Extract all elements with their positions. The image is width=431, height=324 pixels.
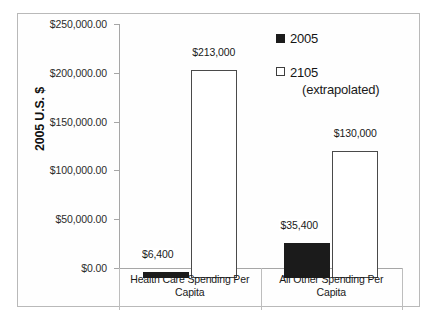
y-tick-label: $200,000.00 <box>50 67 107 79</box>
legend-label-2005: 2005 <box>290 30 318 47</box>
y-tick-label: $0.00 <box>81 262 107 274</box>
y-tick-mark: $200,000.00 <box>114 73 119 74</box>
legend-swatch-outline-icon <box>276 67 285 76</box>
chart-legend: 2005 2105 (extrapolated) <box>276 30 426 114</box>
legend-sublabel-2105: (extrapolated) <box>302 81 379 98</box>
bar-2105-group-1[interactable] <box>191 70 237 278</box>
legend-label-2105: 2105 <box>290 65 318 80</box>
bar-value-label: $213,000 <box>191 46 236 58</box>
y-tick-mark: $100,000.00 <box>114 170 119 171</box>
x-axis-category-label: All Other Spending PerCapita <box>261 273 403 299</box>
category-label-line2: Capita <box>261 286 403 299</box>
legend-item-2105[interactable]: 2105 (extrapolated) <box>276 63 426 98</box>
y-tick-mark: $150,000.00 <box>114 122 119 123</box>
y-tick-label: $50,000.00 <box>55 213 107 225</box>
y-axis-line <box>119 24 120 269</box>
y-tick-label: $150,000.00 <box>50 116 107 128</box>
y-tick-label: $100,000.00 <box>50 164 107 176</box>
legend-item-2005[interactable]: 2005 <box>276 30 426 47</box>
category-label-line2: Capita <box>119 286 261 299</box>
y-axis-title: 2005 U.S. $ <box>33 59 47 179</box>
bar-2105-group-2[interactable] <box>332 151 378 278</box>
chart-frame: 2005 U.S. $ $0.00$50,000.00$100,000.00$1… <box>17 13 420 307</box>
category-label-line1: Health Care Spending Per <box>119 273 261 286</box>
legend-swatch-filled-icon <box>276 34 285 43</box>
bar-value-label: $6,400 <box>141 248 175 260</box>
legend-label-2105-wrap: 2105 (extrapolated) <box>290 63 379 98</box>
chart-container: 2005 U.S. $ $0.00$50,000.00$100,000.00$1… <box>0 0 431 324</box>
x-axis-category-label: Health Care Spending PerCapita <box>119 273 261 299</box>
bar-value-label: $35,400 <box>280 219 319 231</box>
category-label-line1: All Other Spending Per <box>261 273 403 286</box>
category-separator <box>402 268 403 310</box>
y-tick-mark: $50,000.00 <box>114 219 119 220</box>
bar-value-label: $130,000 <box>333 127 378 139</box>
y-tick-mark: $250,000.00 <box>114 24 119 25</box>
y-tick-label: $250,000.00 <box>50 18 107 30</box>
